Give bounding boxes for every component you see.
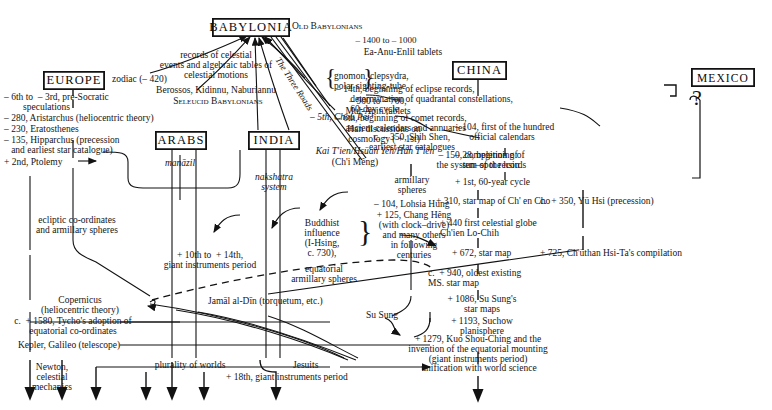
ms-star-map-940-label: c. + 940, oldest existing MS. star map [428,268,521,288]
su-sung-label: Su Sung [352,310,412,320]
buddhist-influence-label: Buddhist influence (I-Hsing, c. 730), [290,218,354,258]
seleucid-babylonians-label: Seleucid Babylonians [134,96,302,106]
region-label-india: INDIA [254,133,295,148]
ptolemy-label: + 2nd, Ptolemy [4,157,62,167]
region-box-europe[interactable]: EUROPE [43,71,105,90]
yu-hsi-precession-label: c. + 350, Yü Hsi (precession) [540,196,654,206]
star-map-672-label: + 672, star map [452,248,511,258]
ea-anu-enlil-tablets: Ea-Anu-Enlil tablets [338,47,468,57]
old-babylonians-label: Old Babylonians [292,21,362,31]
chi-meng-text: (Ch'i Mêng) [300,157,410,167]
region-label-mexico: MEXICO [697,72,749,84]
chuthan-compilation-label: + 725, Ch'üthan Hsi-Ta's compilation [540,248,682,258]
kepler-galileo-label: Kepler, Galileo (telescope) [18,340,120,350]
region-label-babylonia: BABYLONIA [209,20,293,35]
eclipse-records-label: – 14th, beginning of eclipse records, de… [336,84,513,114]
unification-label: unification with world science [404,363,554,373]
armillary-spheres-label: armillary spheres [386,175,438,195]
region-box-babylonia[interactable]: BABYLONIA [212,18,290,37]
giant-instruments-18th-label: + 18th, giant instruments period [226,372,348,382]
kai-tien-text: Kai T'ien/Hsüan Yeh/Hun T'ien [296,146,454,156]
calendars-104-entry: – 104, first of the hundred official cal… [455,122,554,142]
ecliptic-coordinates-label: ecliptic co-ordinates and armillary sphe… [18,215,136,235]
babylonia-date-1400: – 1400 to – 1000 [326,36,446,46]
region-label-europe: EUROPE [46,73,101,88]
region-label-arabs: ARABS [157,133,204,148]
newton-label: Newton, celestial mechanics [10,362,94,392]
nakshatra-label: nakshatra system [242,172,306,192]
star-map-310-label: + 310, star map of Ch' en Cho [436,196,550,206]
equatorial-armillary-label: equatorial armillary spheres [276,264,372,284]
hipparchus-label: – 135, Hipparchus (precession and earlie… [4,135,120,155]
giant-instruments-10-14-label: + 10th to + 14th, giant instruments peri… [140,250,280,270]
plurality-of-worlds-label: plurality of worlds [110,360,270,370]
sixty-year-cycle-label: + 1st, 60-year cycle [455,177,530,187]
celestial-globe-440-label: + 440 first celestial globe Ch'ien Lo-Ch… [440,218,537,238]
tycho-label: c. + 1580, Tycho's adoption of equatoria… [2,316,144,336]
region-box-arabs[interactable]: ARABS [155,131,207,150]
jesuits-label: Jesuits [293,360,318,370]
copernicus-label: Copernicus (heliocentric theory) [30,295,130,315]
berossos-label: Berossos, Kidinnu, Naburiannu [126,85,306,95]
aristarchus-label: – 280, Aristarchus (heliocentric theory) [4,113,154,123]
gnomon-left-brace-icon: { [325,66,336,89]
transmission-diagram: BABYLONIA EUROPE ARABS INDIA CHINA MEXIC… [0,0,772,410]
kuo-shou-ching-label: + 1279, Kuo Shou-Ching and the invention… [388,334,568,364]
mexico-question-mark: ? [686,86,708,109]
zodiac-label: zodiac (– 420) [112,74,167,84]
presocratic-label: – 6th to – 3rd, pre-Socratic speculation… [4,92,109,112]
su-sung-star-maps-label: + 1086, Su Sung's star maps [430,294,534,314]
sunspot-records-28-label: – 28, beginning of sun–spot records [455,150,526,170]
han-discussions-text: Han discussions on cosmology ( + 1st) [318,124,450,144]
manazil-label: manāzil [150,158,210,168]
region-box-india[interactable]: INDIA [248,131,300,150]
jamal-al-din-label: Jamāl al-Dīn (torquetum, etc.) [208,296,323,306]
chou-pei-text: – 5th, Chou Pei [310,112,370,122]
eratosthenes-label: – 230, Eratosthenes [4,124,79,134]
